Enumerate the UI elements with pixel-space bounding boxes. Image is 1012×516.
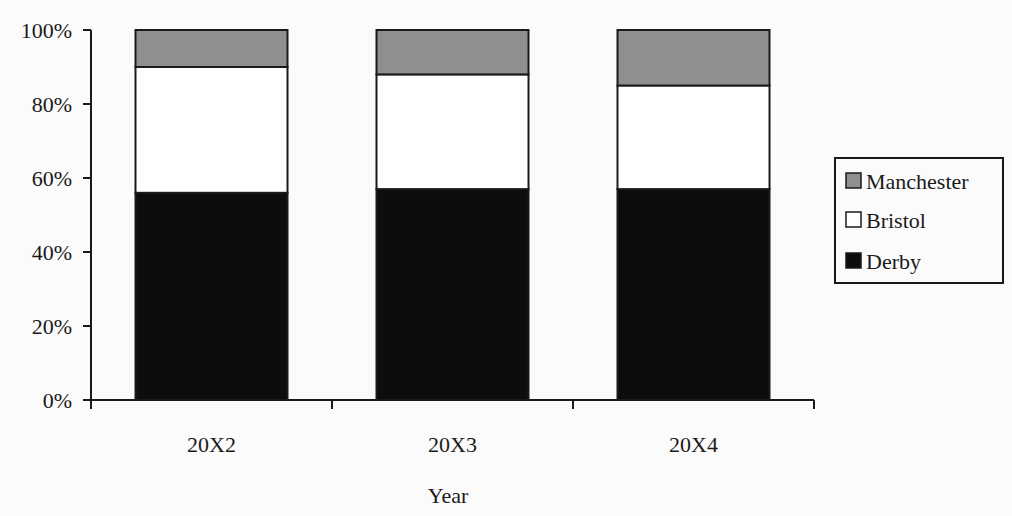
- bar-20X3: [377, 30, 529, 400]
- bar-segment-derby: [618, 189, 770, 400]
- bar-segment-derby: [377, 189, 529, 400]
- plot-area: [136, 30, 770, 400]
- bar-segment-bristol: [377, 74, 529, 189]
- legend-swatch: [846, 253, 861, 268]
- bar-segment-manchester: [618, 30, 770, 86]
- bar-segment-manchester: [377, 30, 529, 74]
- x-tick-label: 20X4: [669, 432, 718, 457]
- y-tick-label: 20%: [32, 314, 72, 339]
- legend-label: Manchester: [866, 169, 969, 194]
- bar-20X2: [136, 30, 288, 400]
- bar-20X4: [618, 30, 770, 400]
- y-tick-label: 40%: [32, 240, 72, 265]
- stacked-bar-chart: 0%20%40%60%80%100% 20X220X320X4 Year Man…: [0, 0, 1012, 516]
- x-axis: 20X220X320X4: [91, 400, 814, 457]
- y-tick-label: 80%: [32, 92, 72, 117]
- x-tick-label: 20X2: [187, 432, 236, 457]
- y-axis: 0%20%40%60%80%100%: [21, 18, 91, 413]
- bar-segment-derby: [136, 193, 288, 400]
- legend-label: Derby: [866, 249, 921, 274]
- y-tick-label: 0%: [43, 388, 72, 413]
- bar-segment-bristol: [136, 67, 288, 193]
- legend-swatch: [846, 173, 861, 188]
- y-tick-label: 60%: [32, 166, 72, 191]
- bar-segment-manchester: [136, 30, 288, 67]
- legend: ManchesterBristolDerby: [835, 158, 1003, 283]
- bar-segment-bristol: [618, 86, 770, 190]
- x-axis-title: Year: [428, 483, 469, 508]
- x-tick-label: 20X3: [428, 432, 477, 457]
- legend-swatch: [846, 212, 861, 227]
- legend-label: Bristol: [866, 208, 926, 233]
- y-tick-label: 100%: [21, 18, 72, 43]
